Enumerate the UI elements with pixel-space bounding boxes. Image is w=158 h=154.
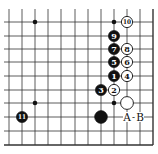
- white-stone: [121, 97, 134, 110]
- star-point: [33, 20, 38, 25]
- stone-move-number: 3: [98, 85, 104, 95]
- stone-move-number: 8: [124, 44, 130, 54]
- marker-a: A: [122, 111, 131, 123]
- stone-move-number: 2: [111, 85, 117, 95]
- star-point: [33, 101, 38, 106]
- stone-move-number: 1: [111, 71, 117, 81]
- position-markers: -AB: [122, 111, 144, 123]
- marker-separator: -: [132, 112, 135, 122]
- marker-b: B: [136, 111, 144, 123]
- black-stone-9: 9: [108, 30, 119, 41]
- stone-move-number: 7: [111, 44, 117, 54]
- black-stone-1: 1: [108, 70, 119, 81]
- white-stone-4: 4: [121, 70, 132, 81]
- stone-move-number: 6: [124, 57, 130, 67]
- black-stone-3: 3: [95, 84, 106, 95]
- star-point: [112, 101, 117, 106]
- stone-move-number: 10: [123, 18, 131, 26]
- white-stone-10: 10: [121, 16, 132, 27]
- white-stone-6: 6: [121, 56, 132, 67]
- white-stone-8: 8: [121, 43, 132, 54]
- black-stone-7: 7: [108, 43, 119, 54]
- white-stone-2: 2: [108, 84, 119, 95]
- star-point: [112, 20, 117, 25]
- black-stone: [95, 111, 108, 124]
- go-board-diagram: 1234567891011 -AB: [0, 0, 158, 154]
- stone-move-number: 4: [124, 71, 130, 81]
- black-stone-5: 5: [108, 56, 119, 67]
- black-stone-11: 11: [16, 111, 27, 122]
- stone-move-number: 5: [111, 57, 117, 67]
- stone-move-number: 11: [18, 113, 26, 121]
- stone-move-number: 9: [111, 31, 117, 41]
